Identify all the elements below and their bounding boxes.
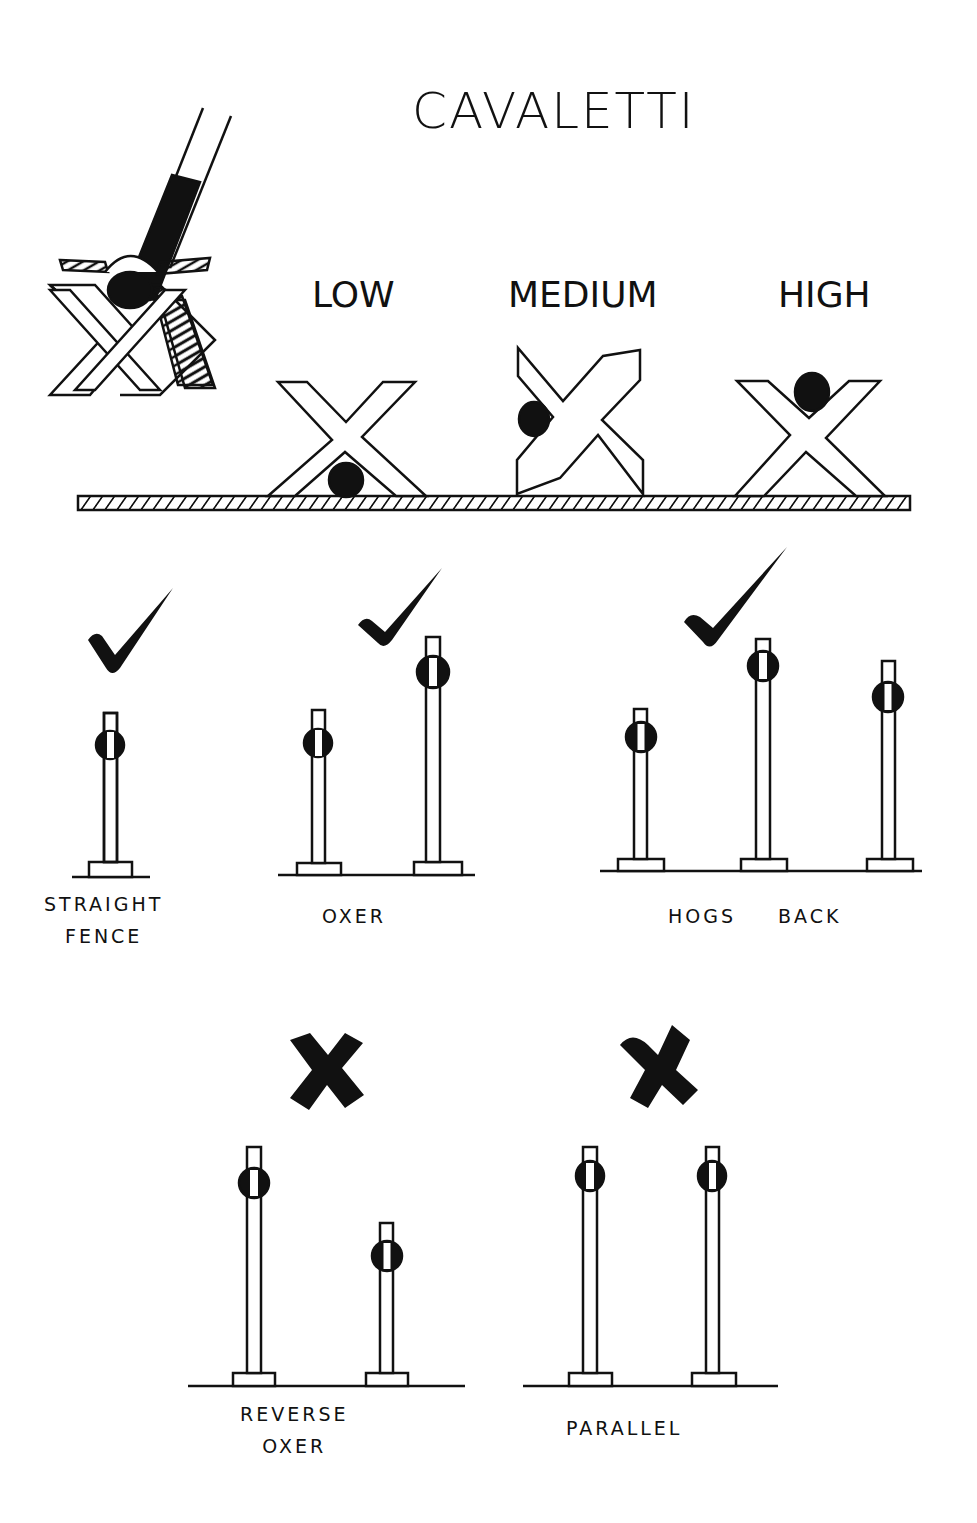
fence-reverse-oxer-icon <box>188 1147 465 1386</box>
check-icon-straight <box>88 588 173 673</box>
diagram-illustration <box>0 0 977 1523</box>
fence-straight-icon <box>72 713 150 877</box>
fence-parallel-icon <box>523 1147 778 1386</box>
cavaletti-high-icon <box>735 373 885 496</box>
fence-hogs-back-icon <box>600 639 922 871</box>
cavaletti-medium-icon <box>517 348 643 494</box>
cavaletti-low-icon <box>268 382 426 497</box>
cross-icon-parallel <box>620 1025 698 1108</box>
cavaletti-perspective-icon <box>50 108 231 395</box>
check-icon-hogs-back <box>684 547 787 647</box>
ground-hatched <box>78 496 910 510</box>
cross-icon-reverse-oxer <box>290 1033 364 1110</box>
fence-oxer-icon <box>278 637 475 875</box>
check-icon-oxer <box>358 568 442 646</box>
